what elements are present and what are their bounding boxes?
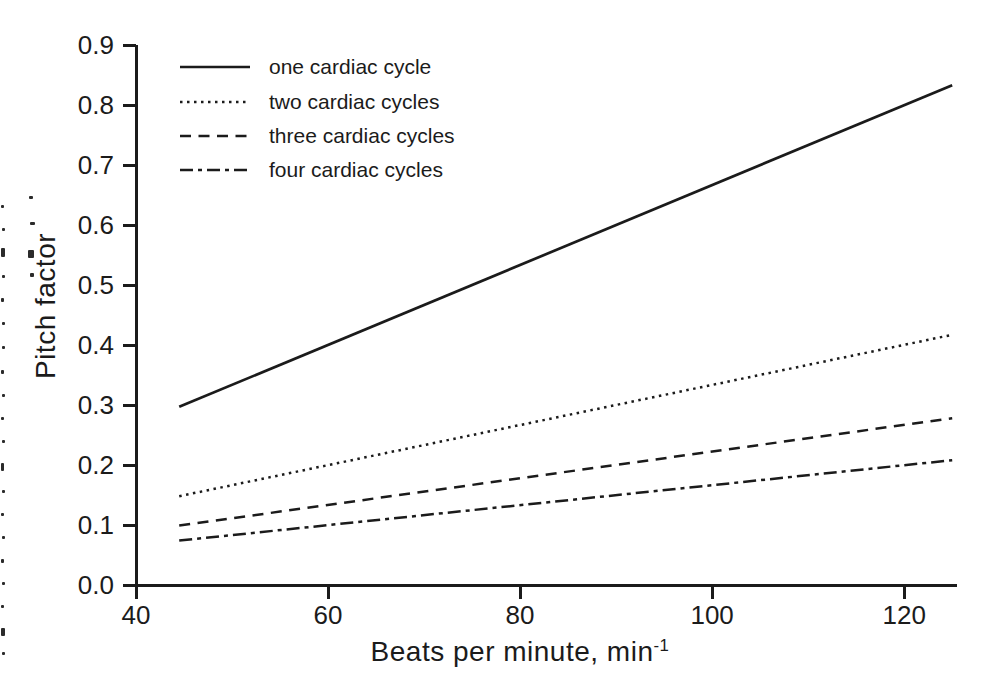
- x-axis-label-exponent: -1: [653, 636, 669, 655]
- scan-speck: [1, 205, 4, 208]
- scan-speck: [2, 228, 5, 231]
- y-tick-label: 0.8: [50, 91, 114, 119]
- scan-speck: [1, 559, 4, 563]
- scan-speck: [1, 417, 4, 420]
- legend-line-sample-dotted: [180, 98, 250, 106]
- scan-speck: [2, 346, 5, 349]
- y-tick-label: 0.1: [50, 511, 114, 539]
- x-tick-label: 120: [882, 601, 925, 629]
- scan-speck: [2, 440, 5, 443]
- scan-speck: [1, 628, 5, 636]
- legend-item: two cardiac cycles: [180, 84, 455, 118]
- chart-figure: Pitch factor Beats per minute, min-1 one…: [0, 0, 990, 679]
- scan-speck: [2, 275, 5, 278]
- scan-speck: [29, 196, 33, 199]
- legend-item: four cardiac cycles: [180, 153, 455, 187]
- scan-speck: [1, 370, 4, 374]
- scan-speck: [2, 536, 5, 539]
- x-axis-label: Beats per minute, min-1: [371, 636, 670, 668]
- y-tick-label: 0.2: [50, 451, 114, 479]
- scan-speck: [2, 490, 5, 493]
- x-tick-label: 100: [690, 601, 733, 629]
- legend-line-sample-dashdot: [180, 166, 250, 174]
- scan-speck: [1, 513, 4, 516]
- scan-speck: [28, 250, 34, 258]
- y-tick-label: 0.5: [50, 271, 114, 299]
- scan-speck: [2, 652, 5, 655]
- legend-label: two cardiac cycles: [269, 90, 439, 114]
- x-tick-label: 80: [506, 601, 535, 629]
- scan-speck: [30, 222, 35, 225]
- y-tick-label: 0.3: [50, 391, 114, 419]
- legend: one cardiac cycletwo cardiac cyclesthree…: [180, 50, 455, 188]
- scan-speck: [1, 463, 4, 471]
- legend-label: four cardiac cycles: [269, 158, 443, 182]
- x-tick-label: 40: [122, 601, 151, 629]
- legend-item: three cardiac cycles: [180, 119, 455, 153]
- y-tick-label: 0.9: [50, 31, 114, 59]
- scan-speck: [2, 582, 5, 585]
- scan-speck: [2, 322, 5, 325]
- scan-speck: [2, 394, 5, 397]
- legend-label: one cardiac cycle: [269, 55, 431, 79]
- y-tick-label: 0.6: [50, 211, 114, 239]
- y-tick-label: 0.7: [50, 151, 114, 179]
- x-tick-label: 60: [314, 601, 343, 629]
- plot-area: [0, 0, 990, 679]
- x-axis-label-text: Beats per minute, min: [371, 636, 654, 667]
- y-tick-label: 0.0: [50, 571, 114, 599]
- legend-line-sample-dashed: [180, 132, 250, 140]
- scan-speck: [1, 298, 4, 302]
- scan-speck: [30, 273, 34, 277]
- y-tick-label: 0.4: [50, 331, 114, 359]
- legend-line-sample-solid: [180, 63, 250, 71]
- scan-speck: [1, 248, 5, 257]
- legend-item: one cardiac cycle: [180, 50, 455, 84]
- scan-speck: [1, 605, 4, 608]
- legend-label: three cardiac cycles: [269, 124, 455, 148]
